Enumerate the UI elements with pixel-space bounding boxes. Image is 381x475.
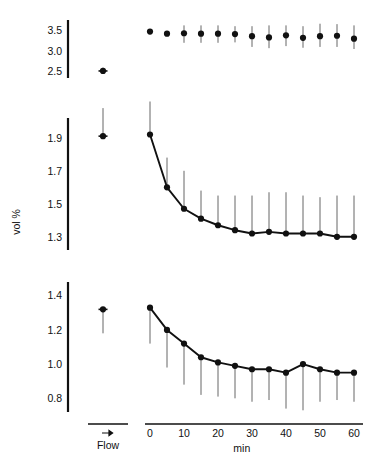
data-point-bottom-5 [232, 363, 238, 369]
time-axis-label: min [233, 442, 250, 454]
data-point-top-8 [283, 32, 289, 38]
data-point-middle-3 [198, 216, 204, 222]
x-tick-label-6: 60 [348, 427, 360, 439]
data-point-bottom-10 [317, 366, 323, 372]
data-point-top-1 [164, 31, 170, 37]
y-tick-label-middle-1: 1.7 [47, 165, 62, 177]
y-tick-label-middle-0: 1.9 [47, 132, 62, 144]
data-point-top-5 [232, 31, 238, 37]
data-point-middle-2 [181, 206, 187, 212]
data-point-middle-0 [147, 131, 153, 137]
data-point-bottom-9 [300, 361, 306, 367]
x-tick-label-2: 20 [212, 427, 224, 439]
data-point-middle-1 [164, 184, 170, 190]
data-point-bottom-6 [249, 366, 255, 372]
data-point-top-7 [266, 34, 272, 40]
chart-canvas: 3.53.02.51.91.71.51.31.41.21.00.8Flow010… [0, 0, 381, 475]
series-line-bottom [150, 308, 354, 373]
x-tick-label-0: 0 [147, 427, 153, 439]
data-point-middle-12 [351, 234, 357, 240]
data-point-middle-7 [266, 229, 272, 235]
data-point-top-3 [198, 31, 204, 37]
data-point-middle-6 [249, 230, 255, 236]
data-point-bottom-3 [198, 354, 204, 360]
y-tick-label-top-0: 3.5 [47, 24, 62, 36]
x-tick-label-3: 30 [246, 427, 258, 439]
data-point-top-2 [181, 30, 187, 36]
x-axis-group: Flow0102030405060min [88, 424, 363, 454]
y-tick-label-bottom-0: 1.4 [47, 289, 62, 301]
y-tick-label-middle-2: 1.5 [47, 198, 62, 210]
data-point-top-4 [215, 31, 221, 37]
x-tick-label-1: 10 [178, 427, 190, 439]
y-tick-label-top-2: 2.5 [47, 65, 62, 77]
y-tick-label-bottom-3: 0.8 [47, 392, 62, 404]
flow-data-point-top [100, 68, 106, 74]
data-point-top-0 [147, 29, 153, 35]
data-point-bottom-2 [181, 340, 187, 346]
x-tick-label-5: 50 [314, 427, 326, 439]
data-point-middle-4 [215, 222, 221, 228]
data-point-middle-5 [232, 227, 238, 233]
data-point-top-12 [351, 36, 357, 42]
figure-container: 3.53.02.51.91.71.51.31.41.21.00.8Flow010… [0, 0, 381, 475]
y-tick-label-bottom-1: 1.2 [47, 324, 62, 336]
y-tick-label-bottom-2: 1.0 [47, 358, 62, 370]
data-point-top-11 [334, 33, 340, 39]
flow-data-point-middle [100, 133, 106, 139]
y-tick-label-middle-3: 1.3 [47, 231, 62, 243]
flow-axis-label: Flow [97, 439, 120, 451]
data-point-bottom-8 [283, 370, 289, 376]
data-point-top-9 [300, 35, 306, 41]
y-axis-title: vol % [10, 209, 22, 235]
data-point-bottom-12 [351, 370, 357, 376]
y-tick-label-top-1: 3.0 [47, 45, 62, 57]
data-point-top-10 [317, 33, 323, 39]
data-point-middle-11 [334, 234, 340, 240]
data-point-bottom-0 [147, 305, 153, 311]
data-point-bottom-7 [266, 366, 272, 372]
panel-top: 3.53.02.5 [47, 20, 357, 78]
data-point-bottom-4 [215, 359, 221, 365]
flow-data-point-bottom [100, 306, 106, 312]
data-point-middle-10 [317, 230, 323, 236]
data-point-middle-8 [283, 230, 289, 236]
panel-middle: 1.91.71.51.3 [47, 102, 357, 251]
right-arrow-icon [102, 431, 113, 436]
data-point-bottom-11 [334, 370, 340, 376]
data-point-top-6 [249, 33, 255, 39]
data-point-middle-9 [300, 230, 306, 236]
panel-bottom: 1.41.21.00.8 [47, 282, 357, 412]
x-tick-label-4: 40 [280, 427, 292, 439]
data-point-bottom-1 [164, 327, 170, 333]
